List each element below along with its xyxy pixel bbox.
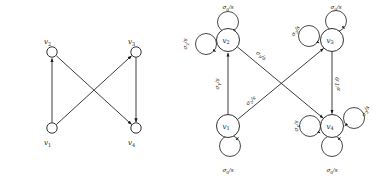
right-graph-panel: v1 v2 v3 v4 σ1/s σ2/s σ1/s s/1.0 <box>180 0 385 179</box>
self-loop-v4-right[interactable] <box>344 108 365 129</box>
self-loop-v4-left[interactable] <box>300 116 321 137</box>
node-label-v1: v1 <box>44 138 51 148</box>
loop-label-v3-left: σ2/s <box>290 25 302 39</box>
left-graph-edges <box>52 56 136 125</box>
edge-label-v3-v4: s/1.0 <box>334 77 342 91</box>
node-v4[interactable] <box>131 123 141 133</box>
self-loop-v3-top[interactable] <box>326 11 347 32</box>
right-graph-loop-labels: σ0/s σ0/s σ2/s σ0/s σ2/s σ0/s σ1 <box>182 4 372 175</box>
self-loop-v1-bottom-arrow <box>237 138 238 139</box>
node-label-v4: v4 <box>128 138 135 148</box>
right-graph-edge-labels: σ1/s σ2/s σ1/s s/1.0 <box>214 50 341 108</box>
right-graph-nodes <box>217 29 344 138</box>
loop-label-v4-left: σ1/s <box>293 120 301 131</box>
self-loop-v4-bottom-arrow <box>339 138 340 139</box>
left-graph-panel: v1 v2 v3 v4 <box>0 0 185 179</box>
self-loop-v3-left[interactable] <box>299 26 320 47</box>
right-graph-canvas: v1 v2 v3 v4 σ1/s σ2/s σ1/s s/1.0 <box>180 0 385 179</box>
node-v3[interactable] <box>131 47 141 57</box>
loop-label-v4-bottom: σ0/s <box>326 167 337 175</box>
node-v1[interactable] <box>47 123 57 133</box>
edge-v1-v3 <box>238 49 324 120</box>
loop-label-v4-right: σ2/s <box>360 105 372 118</box>
loop-label-v2-top: σ0/s <box>222 4 233 12</box>
loop-label-v3-top: σ0/s <box>330 4 341 12</box>
right-graph-node-labels: v1 v2 v3 v4 <box>223 36 334 132</box>
node-label-v3: v3 <box>128 37 135 47</box>
edge-label-v1-v3: σ2/s <box>245 95 258 108</box>
self-loop-v3-left-arrow <box>318 42 320 43</box>
loop-label-v1-bottom: σ0/s <box>222 167 233 175</box>
edge-label-v1-v2: σ1/s <box>214 78 222 89</box>
node-label-v2: v2 <box>44 37 51 47</box>
left-graph-node-labels: v1 v2 v3 v4 <box>44 37 135 148</box>
loop-label-v2-left: σ2/s <box>182 38 190 49</box>
self-loop-v2-left[interactable] <box>196 34 217 55</box>
left-graph-canvas: v1 v2 v3 v4 <box>0 0 185 179</box>
self-loop-v2-left-arrow <box>214 51 216 52</box>
self-loop-v4-left-arrow <box>319 132 321 133</box>
edge-v2-v4 <box>238 47 324 118</box>
node-v2[interactable] <box>47 47 57 57</box>
two-graph-figure: v1 v2 v3 v4 <box>0 0 385 179</box>
edge-label-v2-v4: σ1/s <box>254 50 267 63</box>
right-graph-edges <box>228 47 332 120</box>
